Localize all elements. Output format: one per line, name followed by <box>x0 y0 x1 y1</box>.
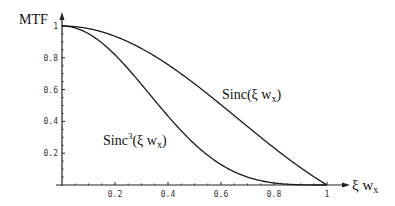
mtf-chart: 0.20.40.60.810.20.40.60.81 MTF ξ wx Sinc… <box>0 0 395 206</box>
y-tick-label: 0.4 <box>44 117 59 126</box>
x-tick-label: 0.6 <box>214 190 229 199</box>
series-label-sinc: Sinc(ξ wx) <box>222 87 281 104</box>
y-tick-label: 0.2 <box>44 149 59 158</box>
curves <box>62 26 327 185</box>
series-line <box>62 26 327 185</box>
series-line <box>62 26 327 185</box>
x-axis-title: ξ wx <box>352 177 378 195</box>
x-axis-title-sub: x <box>373 184 378 195</box>
ticks <box>62 26 327 185</box>
x-tick-label: 1 <box>325 190 330 199</box>
x-tick-label: 0.2 <box>108 190 123 199</box>
y-tick-label: 1 <box>53 22 58 31</box>
y-tick-label: 0.6 <box>44 86 59 95</box>
tick-labels: 0.20.40.60.810.20.40.60.81 <box>44 22 330 199</box>
y-tick-label: 0.8 <box>44 54 59 63</box>
series-label-sinc-cubed: Sinc3(ξ wx) <box>103 131 167 150</box>
y-axis-title: MTF <box>19 12 48 27</box>
y-axis-arrow-icon <box>60 12 65 20</box>
x-axis-arrow-icon <box>342 183 350 188</box>
x-tick-label: 0.4 <box>161 190 176 199</box>
x-tick-label: 0.8 <box>267 190 282 199</box>
